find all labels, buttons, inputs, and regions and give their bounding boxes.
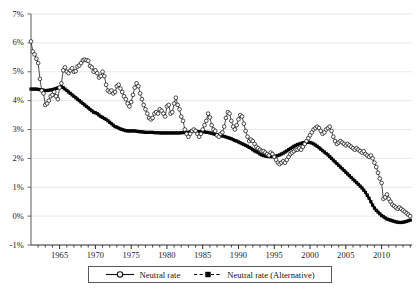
x-axis-ticks <box>38 245 410 249</box>
chart-legend: Neutral rate Neutral rate (Alternative) <box>88 266 332 283</box>
x-tick-label: 2010 <box>365 250 399 260</box>
chart-container: 7%6%5%4%3%2%1%0%-1% 19651970197519801985… <box>0 0 419 294</box>
x-tick-label: 1985 <box>186 250 220 260</box>
legend-label-neutral-rate: Neutral rate <box>139 270 180 280</box>
y-tick-label: 5% <box>0 66 24 76</box>
legend-item-neutral-rate-alternative: Neutral rate (Alternative) <box>193 269 314 280</box>
x-tick-label: 1975 <box>114 250 148 260</box>
x-tick-label: 1990 <box>221 250 255 260</box>
x-tick-label: 2005 <box>329 250 363 260</box>
y-tick-label: 7% <box>0 9 24 19</box>
x-tick-label: 2000 <box>293 250 327 260</box>
series-neutral-rate <box>29 40 412 218</box>
x-tick-label: 1970 <box>78 250 112 260</box>
y-tick-label: 6% <box>0 37 24 47</box>
horizontal-gridlines <box>31 14 412 216</box>
y-tick-label: 1% <box>0 182 24 192</box>
y-tick-label: 0% <box>0 211 24 221</box>
legend-swatch-solid-open-circle <box>105 269 135 280</box>
y-tick-label: -1% <box>0 240 24 250</box>
legend-item-neutral-rate: Neutral rate <box>105 269 180 280</box>
x-tick-label: 1980 <box>150 250 184 260</box>
legend-label-neutral-rate-alternative: Neutral rate (Alternative) <box>227 270 314 280</box>
y-tick-label: 2% <box>0 153 24 163</box>
x-tick-label: 1965 <box>43 250 77 260</box>
series-neutral-rate-alternative <box>29 85 411 224</box>
legend-swatch-dashed-filled-square <box>193 269 223 280</box>
x-tick-label: 1995 <box>257 250 291 260</box>
y-tick-label: 4% <box>0 95 24 105</box>
y-tick-label: 3% <box>0 124 24 134</box>
